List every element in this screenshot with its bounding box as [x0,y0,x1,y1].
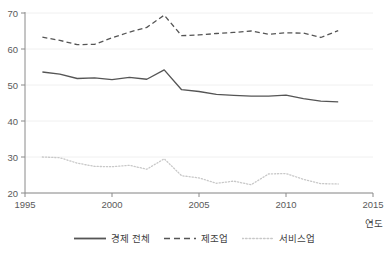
legend-key-solid-icon [74,234,106,243]
svg-text:2000: 2000 [101,199,122,210]
legend-item-manufacturing[interactable]: 제조업 [164,234,228,244]
svg-text:20: 20 [7,188,18,199]
data-series-group [42,15,338,185]
svg-text:50: 50 [7,80,18,91]
svg-text:2005: 2005 [188,199,209,210]
legend-label-manufacturing: 제조업 [201,234,228,244]
svg-text:30: 30 [7,152,18,163]
chart-legend: 경제 전체 제조업 서비스업 [0,234,389,244]
legend-item-services[interactable]: 서비스업 [242,234,315,244]
legend-key-dotted-icon [242,234,274,243]
series-line-2 [42,157,338,185]
svg-text:1995: 1995 [14,199,35,210]
legend-key-dashed-icon [164,234,196,243]
svg-text:60: 60 [7,44,18,55]
series-line-1 [42,15,338,45]
line-chart-plot: 203040506070 19952000200520102015 [0,0,389,255]
chart-container: 203040506070 19952000200520102015 연도 경제 … [0,0,389,255]
legend-label-economy-total: 경제 전체 [111,234,150,244]
tick-marks-group [21,13,373,197]
legend-label-services: 서비스업 [279,234,315,244]
legend-item-economy-total[interactable]: 경제 전체 [74,234,150,244]
axis-lines-group [25,12,373,193]
gridlines-group [25,13,373,193]
svg-text:40: 40 [7,116,18,127]
svg-text:70: 70 [7,8,18,19]
svg-text:2010: 2010 [275,199,296,210]
series-line-0 [42,70,338,102]
y-axis-tick-labels: 203040506070 [7,8,18,199]
x-axis-tick-labels: 19952000200520102015 [14,199,383,210]
svg-text:2015: 2015 [362,199,383,210]
x-axis-title: 연도 [365,216,383,230]
